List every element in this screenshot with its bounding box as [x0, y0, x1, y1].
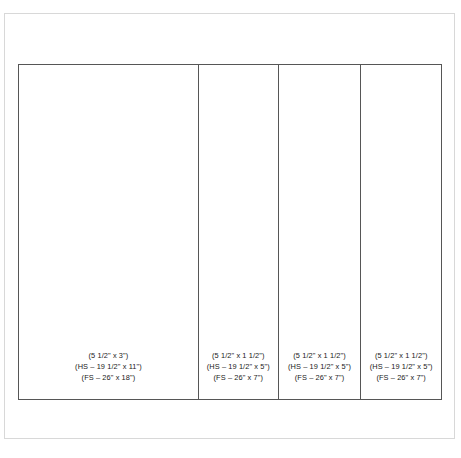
- panel-4-hs-size: (HS – 19 1/2" x 5"): [370, 361, 433, 372]
- panel-4-fs-size: (FS – 26" x 7"): [370, 372, 433, 383]
- page-canvas: (5 1/2" x 3") (HS – 19 1/2" x 11") (FS –…: [0, 0, 461, 458]
- panel-4: (5 1/2" x 1 1/2") (HS – 19 1/2" x 5") (F…: [360, 65, 441, 399]
- panel-3-dimension-label: (5 1/2" x 1 1/2") (HS – 19 1/2" x 5") (F…: [288, 350, 351, 399]
- panel-4-dimension-label: (5 1/2" x 1 1/2") (HS – 19 1/2" x 5") (F…: [370, 350, 433, 399]
- panel-1-hs-size: (HS – 19 1/2" x 11"): [75, 361, 142, 372]
- panel-1: (5 1/2" x 3") (HS – 19 1/2" x 11") (FS –…: [19, 65, 198, 399]
- panel-1-fs-size: (FS – 26" x 18"): [75, 372, 142, 383]
- panel-3-fs-size: (FS – 26" x 7"): [288, 372, 351, 383]
- panel-layout-drawing: (5 1/2" x 3") (HS – 19 1/2" x 11") (FS –…: [18, 64, 442, 400]
- panel-2-hs-size: (HS – 19 1/2" x 5"): [207, 361, 270, 372]
- panel-2-dimension-label: (5 1/2" x 1 1/2") (HS – 19 1/2" x 5") (F…: [207, 350, 270, 399]
- panel-2-nominal-size: (5 1/2" x 1 1/2"): [207, 350, 270, 361]
- panel-1-dimension-label: (5 1/2" x 3") (HS – 19 1/2" x 11") (FS –…: [75, 350, 142, 399]
- panel-2-fs-size: (FS – 26" x 7"): [207, 372, 270, 383]
- panel-4-nominal-size: (5 1/2" x 1 1/2"): [370, 350, 433, 361]
- panel-3: (5 1/2" x 1 1/2") (HS – 19 1/2" x 5") (F…: [278, 65, 361, 399]
- panel-3-hs-size: (HS – 19 1/2" x 5"): [288, 361, 351, 372]
- panel-2: (5 1/2" x 1 1/2") (HS – 19 1/2" x 5") (F…: [198, 65, 278, 399]
- panel-1-nominal-size: (5 1/2" x 3"): [75, 350, 142, 361]
- panel-3-nominal-size: (5 1/2" x 1 1/2"): [288, 350, 351, 361]
